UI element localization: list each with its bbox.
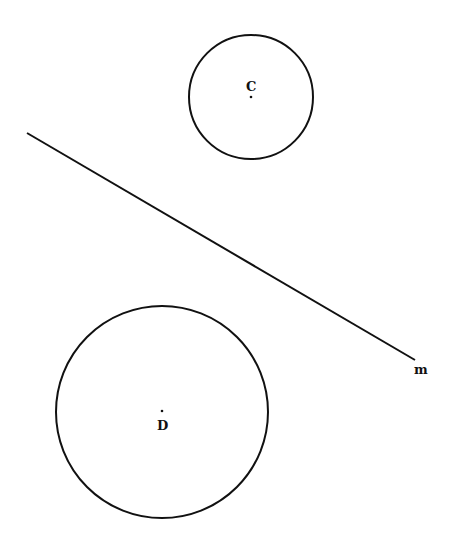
label-d: D [157,418,168,433]
center-point-d [161,410,164,413]
label-m: m [414,362,428,377]
geometry-diagram: C D m [0,0,450,550]
line-m [27,133,415,360]
center-point-c [250,96,253,99]
label-c: C [246,79,256,94]
